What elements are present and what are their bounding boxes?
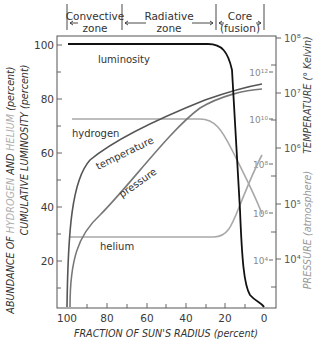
temperature-label: temperature <box>94 134 155 171</box>
y-temp-tick-1e4: 10⁴ <box>284 254 301 265</box>
zone-radiative-label: Radiative <box>144 10 193 22</box>
zone-radiative-sublabel: zone <box>156 22 181 34</box>
y-temp-tick-1e7: 10⁷ <box>284 88 301 99</box>
temperature-title: TEMPERATURE <box>302 83 313 154</box>
svg-text:TEMPERATURE (° Kelvin): TEMPERATURE (° Kelvin) <box>302 36 313 154</box>
temperature-unit: (° Kelvin) <box>302 36 313 83</box>
right-axis-title-pressure: PRESSURE (atmosphere) <box>302 171 313 289</box>
zone-convective-sublabel: zone <box>82 22 107 34</box>
left-axis-title-helium: HELIUM <box>5 113 16 150</box>
pressure-unit: (atmosphere) <box>302 171 313 239</box>
sun-interior-chart: Convective zone Radiative zone Core (fus… <box>0 0 322 347</box>
luminosity-label: luminosity <box>98 54 150 65</box>
y-left-tick-100: 100 <box>34 39 54 51</box>
x-tick-60: 60 <box>140 312 153 324</box>
x-tick-0: 0 <box>261 312 268 324</box>
zone-convective-label: Convective <box>66 10 125 22</box>
y-pressure-tick-1e10: 10¹⁰ <box>249 115 268 125</box>
left-axis-title-percent: (percent) <box>5 66 16 114</box>
x-tick-20: 20 <box>218 312 231 324</box>
left-axis-title-hydrogen: HYDROGEN <box>5 178 16 233</box>
y-temp-tick-1e8: 10⁸ <box>284 33 301 44</box>
zone-core-sublabel: (fusion) <box>220 22 260 34</box>
zone-core-label: Core <box>228 10 252 22</box>
pressure-title: PRESSURE <box>302 238 313 289</box>
y-left-tick-80: 80 <box>41 93 54 105</box>
y-temp-tick-1e6: 10⁶ <box>284 143 301 154</box>
left-axis-title-part-1: ABUNDANCE OF <box>5 233 16 314</box>
y-temp-tick-1e5: 10⁵ <box>284 199 301 210</box>
left-axis-title-luminosity: CUMULATIVE LUMINOSITY (percent) <box>19 65 30 236</box>
x-tick-80: 80 <box>100 312 113 324</box>
left-axis-title: ABUNDANCE OF HYDROGEN AND HELIUM (percen… <box>5 66 16 314</box>
right-axis-title-temperature: TEMPERATURE (° Kelvin) <box>302 36 313 154</box>
x-axis-title: FRACTION OF SUN'S RADIUS (percent) <box>74 328 258 339</box>
y-pressure-tick-1e4: 10⁴ <box>253 256 268 266</box>
x-axis-ticks <box>87 303 245 308</box>
y-left-tick-20: 20 <box>41 255 54 267</box>
y-left-tick-60: 60 <box>41 147 54 159</box>
y-left-tick-40: 40 <box>41 201 54 213</box>
hydrogen-label: hydrogen <box>72 128 119 139</box>
pressure-curve <box>70 89 262 307</box>
helium-label: helium <box>100 241 134 252</box>
svg-text:ABUNDANCE OF HYDROGEN AND HELI: ABUNDANCE OF HYDROGEN AND HELIUM (percen… <box>5 66 16 314</box>
x-tick-100: 100 <box>57 312 77 324</box>
left-axis-ticks <box>57 45 62 288</box>
luminosity-curve <box>68 44 264 307</box>
y-pressure-tick-1e12: 10¹² <box>249 68 268 78</box>
pressure-label: pressure <box>117 166 159 200</box>
left-axis-title-2: CUMULATIVE LUMINOSITY (percent) <box>19 65 30 236</box>
left-axis-title-and: AND <box>5 151 16 178</box>
svg-text:PRESSURE (atmosphere): PRESSURE (atmosphere) <box>302 171 313 289</box>
temperature-curve <box>67 84 262 307</box>
x-tick-40: 40 <box>179 312 192 324</box>
